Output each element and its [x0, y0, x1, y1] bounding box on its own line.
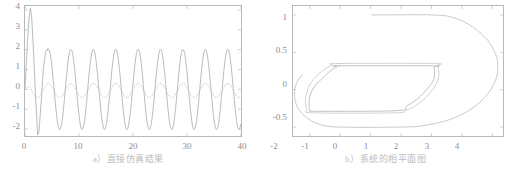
plot-b-ytick-m0p5: -0.5 — [257, 113, 287, 122]
plot-b-ytick-0p5: 0.5 — [257, 46, 287, 55]
plot-a-xtick-10: 10 — [64, 142, 92, 151]
plot-b-xtick-2: 2 — [382, 142, 410, 151]
plot-a-ytick-m1: -1 — [2, 102, 20, 111]
plot-a-ytick-3: 3 — [2, 22, 20, 31]
plot-a-xtick-30: 30 — [173, 142, 201, 151]
panel-b-caption: b）系统的相平面图 — [257, 152, 514, 165]
plot-a-xtick-0: 0 — [10, 142, 38, 151]
figure-row: 4 3 2 1 0 -1 -2 0 10 20 30 40 a）直接仿真结果 1… — [0, 0, 514, 178]
plot-b-canvas — [293, 6, 503, 136]
panel-b: 1 0.5 0 -0.5 -2 -1 0 1 2 3 4 b）系统的相平面图 — [257, 0, 514, 178]
plot-b-xtick-4: 4 — [443, 142, 471, 151]
plot-b-xtick-m1: -1 — [291, 142, 319, 151]
plot-a-ytick-1: 1 — [2, 62, 20, 71]
plot-b-xtick-3: 3 — [413, 142, 441, 151]
panel-a: 4 3 2 1 0 -1 -2 0 10 20 30 40 a）直接仿真结果 — [0, 0, 257, 178]
plot-b-ytick-0: 0 — [257, 80, 287, 89]
plot-a-canvas — [25, 6, 241, 136]
plot-a-ytick-2: 2 — [2, 42, 20, 51]
plot-a-xtick-20: 20 — [119, 142, 147, 151]
plot-b-frame — [292, 5, 504, 137]
plot-a-frame — [24, 5, 242, 137]
plot-a-ytick-4: 4 — [2, 2, 20, 11]
plot-b-xtick-1: 1 — [352, 142, 380, 151]
panel-a-caption: a）直接仿真结果 — [0, 152, 257, 165]
plot-a-ytick-0: 0 — [2, 82, 20, 91]
plot-a-ytick-m2: -2 — [2, 122, 20, 131]
plot-b-xtick-m2: -2 — [260, 142, 288, 151]
plot-a-xtick-40: 40 — [228, 142, 256, 151]
plot-b-ytick-1: 1 — [257, 13, 287, 22]
plot-b-xtick-0: 0 — [321, 142, 349, 151]
